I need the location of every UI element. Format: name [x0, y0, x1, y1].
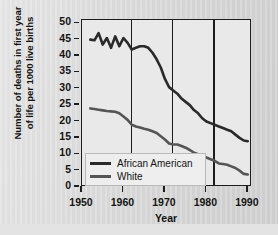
x-tick-label-1960: 1960: [104, 196, 140, 208]
y-tick-30: [74, 87, 79, 88]
x-tick-1950: [80, 186, 82, 192]
y-tick-label-35: 35: [48, 65, 71, 75]
y-tick-label-15: 15: [48, 131, 71, 141]
x-tick-1980: [205, 186, 207, 192]
y-axis-title-line1: Number of deaths in first year: [12, 0, 24, 153]
legend-swatch-african-american: [90, 162, 111, 165]
y-tick-label-30: 30: [48, 82, 71, 92]
y-axis-title: Number of deaths in first year of life p…: [12, 0, 46, 153]
legend-item-african-american: African American: [90, 157, 205, 170]
x-tick-1970: [163, 186, 165, 192]
y-axis-title-line2: of life per 1000 live births: [24, 0, 36, 153]
page-bottom-band: [0, 224, 278, 235]
chart-figure: Number of deaths in first year of life p…: [0, 0, 278, 235]
x-tick-label-1950: 1950: [63, 196, 99, 208]
x-tick-1960: [122, 186, 124, 192]
legend-label-african-american: African American: [117, 158, 193, 169]
legend-item-white: White: [90, 170, 205, 183]
y-tick-0: [74, 185, 79, 186]
y-tick-25: [74, 103, 79, 104]
y-tick-label-20: 20: [48, 115, 71, 125]
y-tick-45: [74, 38, 79, 39]
y-tick-label-10: 10: [48, 147, 71, 157]
legend-swatch-white: [90, 175, 111, 178]
y-tick-label-45: 45: [48, 33, 71, 43]
x-tick-1990: [246, 186, 248, 192]
y-tick-label-40: 40: [48, 49, 71, 59]
y-tick-40: [74, 54, 79, 55]
legend-label-white: White: [117, 171, 143, 182]
y-tick-label-0: 0: [48, 180, 71, 190]
y-tick-20: [74, 120, 79, 121]
y-tick-15: [74, 136, 79, 137]
y-tick-10: [74, 153, 79, 154]
x-tick-label-1970: 1970: [146, 196, 182, 208]
x-tick-label-1990: 1990: [229, 196, 265, 208]
y-tick-label-5: 5: [48, 164, 71, 174]
x-axis-title: Year: [81, 212, 251, 224]
series-line-african-american: [90, 33, 248, 141]
x-tick-label-1980: 1980: [187, 196, 223, 208]
y-tick-label-50: 50: [48, 16, 71, 26]
chart-legend: African American White: [85, 153, 206, 186]
y-tick-35: [74, 71, 79, 72]
y-tick-50: [74, 22, 79, 23]
y-tick-5: [74, 169, 79, 170]
y-tick-label-25: 25: [48, 98, 71, 108]
